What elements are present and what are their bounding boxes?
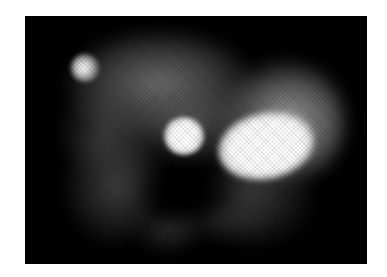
noise-texture: [25, 16, 367, 264]
micrograph-frame: [25, 16, 367, 264]
